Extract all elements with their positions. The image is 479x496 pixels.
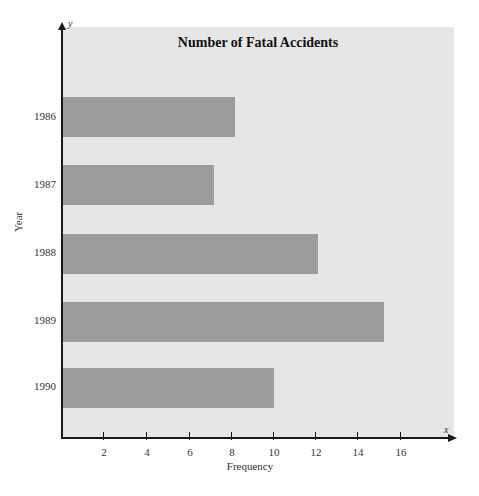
bar-1990 <box>63 368 274 408</box>
y-axis-title: Year <box>12 212 24 232</box>
bar-1989 <box>63 302 384 342</box>
y-tick-label: 1987 <box>20 178 56 190</box>
x-tick-label: 4 <box>137 446 157 458</box>
x-tick-label: 14 <box>348 446 368 458</box>
x-tick <box>357 432 358 440</box>
y-axis-arrow-icon <box>58 22 66 30</box>
x-axis-letter: x <box>444 424 448 435</box>
x-axis <box>61 437 451 439</box>
y-tick-label: 1986 <box>20 110 56 122</box>
bar-1988 <box>63 234 318 274</box>
x-tick <box>146 432 147 440</box>
y-tick-label: 1988 <box>20 246 56 258</box>
x-tick <box>400 432 401 440</box>
x-tick-label: 8 <box>222 446 242 458</box>
x-tick-label: 16 <box>391 446 411 458</box>
x-tick-label: 10 <box>264 446 284 458</box>
x-tick-label: 12 <box>306 446 326 458</box>
x-tick-label: 6 <box>180 446 200 458</box>
y-axis-letter: y <box>68 18 72 29</box>
x-tick-label: 2 <box>94 446 114 458</box>
x-tick <box>103 432 104 440</box>
x-axis-title: Frequency <box>210 460 290 472</box>
y-tick-label: 1990 <box>20 380 56 392</box>
bar-1987 <box>63 165 214 205</box>
x-tick <box>231 432 232 440</box>
x-tick <box>315 432 316 440</box>
y-axis <box>61 28 63 438</box>
x-tick <box>273 432 274 440</box>
y-tick-label: 1989 <box>20 314 56 326</box>
chart-title: Number of Fatal Accidents <box>62 35 454 51</box>
bar-1986 <box>63 97 235 137</box>
x-axis-arrow-icon <box>448 434 457 442</box>
x-tick <box>189 432 190 440</box>
